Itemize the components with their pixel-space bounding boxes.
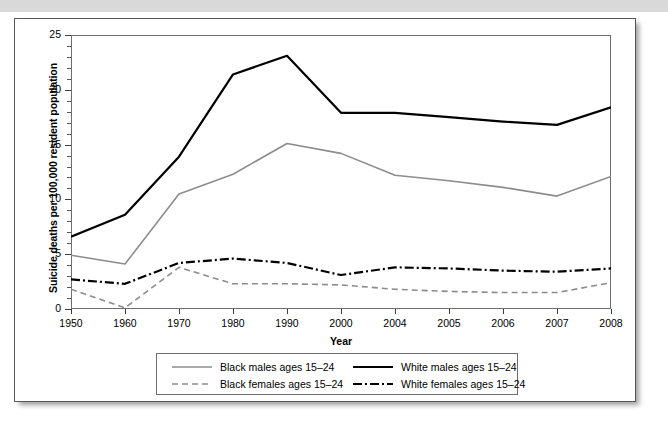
y-axis-tick-label-wrap: 15: [29, 145, 61, 146]
legend-row: Black males ages 15–24White males ages 1…: [157, 358, 519, 376]
legend-line-swatch: [352, 379, 394, 389]
series-line: [71, 144, 611, 265]
x-axis-tick: [179, 309, 180, 314]
series-line: [71, 267, 611, 308]
x-axis-tick-label: 2008: [583, 317, 639, 329]
x-axis-tick: [395, 309, 396, 314]
legend-item[interactable]: White females ages 15–24: [338, 378, 519, 390]
line-chart: Suicide deaths per 100,000 resident popu…: [15, 19, 637, 403]
top-gray-band: [0, 0, 668, 12]
x-axis-tick-label: 2007: [529, 317, 585, 329]
x-axis-tick-label: 2004: [367, 317, 423, 329]
x-axis-tick-label: 1970: [151, 317, 207, 329]
x-axis-tick: [611, 309, 612, 314]
y-axis-tick-label: 0: [35, 303, 61, 314]
legend-line-swatch: [171, 379, 213, 389]
x-axis-tick: [557, 309, 558, 314]
y-axis-tick-label: 20: [35, 84, 61, 95]
y-axis-tick-label: 5: [35, 248, 61, 259]
chart-legend: Black males ages 15–24White males ages 1…: [156, 353, 518, 395]
y-axis-tick-label-wrap: 0: [29, 309, 61, 310]
series-line: [71, 259, 611, 284]
x-axis-tick-label: 1960: [97, 317, 153, 329]
x-axis-tick: [449, 309, 450, 314]
x-axis-tick-label: 2005: [421, 317, 477, 329]
legend-line-swatch: [352, 362, 394, 372]
legend-item[interactable]: Black males ages 15–24: [157, 361, 338, 373]
x-axis-tick-label: 2006: [475, 317, 531, 329]
legend-item-label: White females ages 15–24: [401, 378, 525, 390]
x-axis-tick-label: 2000: [313, 317, 369, 329]
legend-item-label: White males ages 15–24: [401, 361, 517, 373]
x-axis-tick-label: 1950: [43, 317, 99, 329]
y-axis-tick-label-wrap: 20: [29, 90, 61, 91]
y-axis-tick-label-wrap: 10: [29, 199, 61, 200]
x-axis-tick-label: 1990: [259, 317, 315, 329]
x-axis-title: Year: [71, 335, 611, 347]
legend-item-label: Black females ages 15–24: [220, 378, 343, 390]
x-axis-tick: [125, 309, 126, 314]
x-axis-tick: [71, 309, 72, 314]
legend-item[interactable]: White males ages 15–24: [338, 361, 519, 373]
y-axis-tick-label-wrap: 25: [29, 35, 61, 36]
legend-item[interactable]: Black females ages 15–24: [157, 378, 338, 390]
x-axis-tick: [233, 309, 234, 314]
legend-item-label: Black males ages 15–24: [220, 361, 334, 373]
y-axis-tick-label: 15: [35, 139, 61, 150]
screenshot-root: Suicide deaths per 100,000 resident popu…: [0, 0, 668, 427]
x-axis-tick: [503, 309, 504, 314]
x-axis-tick: [341, 309, 342, 314]
series-lines: [71, 35, 611, 309]
x-axis-tick: [287, 309, 288, 314]
series-line: [71, 56, 611, 237]
y-axis-tick-label: 25: [35, 29, 61, 40]
legend-line-swatch: [171, 362, 213, 372]
y-axis-tick-label: 10: [35, 193, 61, 204]
x-axis-tick-label: 1980: [205, 317, 261, 329]
chart-figure-panel: Suicide deaths per 100,000 resident popu…: [14, 18, 636, 402]
legend-row: Black females ages 15–24White females ag…: [157, 375, 519, 393]
y-axis-tick-label-wrap: 5: [29, 254, 61, 255]
